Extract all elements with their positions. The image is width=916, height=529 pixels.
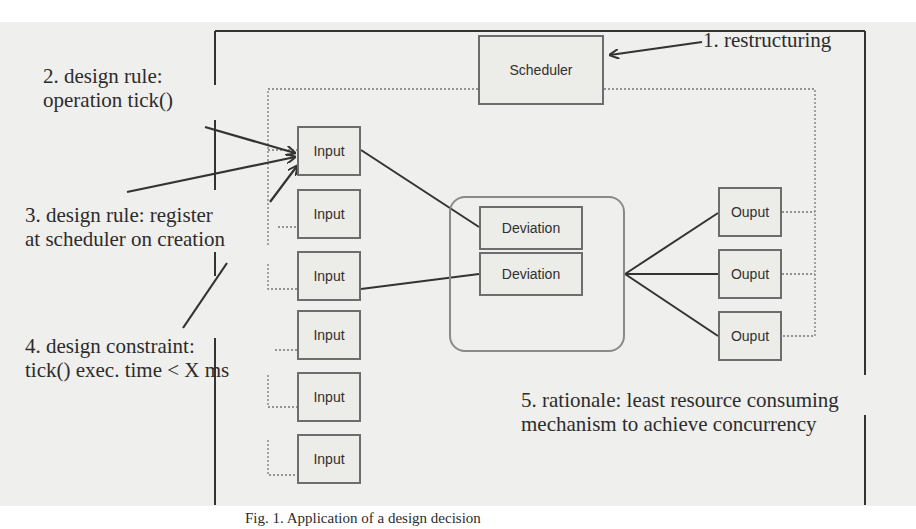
- annotation-line: 2. design rule:: [43, 64, 173, 88]
- scheduler-box: Scheduler: [478, 35, 604, 105]
- annotation-design-constraint: 4. design constraint: tick() exec. time …: [25, 334, 229, 382]
- annotation-line: 5. rationale: least resource consuming: [521, 388, 839, 412]
- annotation-line: 4. design constraint:: [25, 334, 229, 358]
- input-box: Input: [297, 310, 361, 360]
- output-box: Ouput: [718, 249, 782, 299]
- figure-caption: Fig. 1. Application of a design decision: [245, 510, 481, 527]
- input-box: Input: [297, 189, 361, 239]
- annotation-rationale: 5. rationale: least resource consuming m…: [521, 388, 839, 436]
- output-box: Ouput: [718, 311, 782, 361]
- annotation-line: tick() exec. time < X ms: [25, 358, 229, 382]
- annotation-line: operation tick(): [43, 88, 173, 112]
- annotation-design-rule-register: 3. design rule: register at scheduler on…: [25, 203, 225, 251]
- deviation-box: Deviation: [479, 206, 583, 250]
- annotation-line: 3. design rule: register: [25, 203, 225, 227]
- annotation-line: at scheduler on creation: [25, 227, 225, 251]
- input-box: Input: [297, 372, 361, 422]
- output-box: Ouput: [718, 187, 782, 237]
- input-box: Input: [297, 126, 361, 176]
- deviation-box: Deviation: [479, 252, 583, 296]
- annotation-line: mechanism to achieve concurrency: [521, 412, 839, 436]
- input-box: Input: [297, 434, 361, 484]
- annotation-restructuring: 1. restructuring: [703, 28, 831, 52]
- input-box: Input: [297, 251, 361, 301]
- annotation-design-rule-tick: 2. design rule: operation tick(): [43, 64, 173, 112]
